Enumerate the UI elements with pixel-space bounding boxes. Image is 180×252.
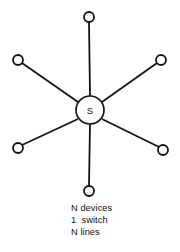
device-node-lower-right	[158, 145, 168, 155]
device-node-top	[84, 12, 94, 22]
caption-line-switch: 1 switch	[71, 215, 171, 227]
spoke-bottom	[89, 124, 90, 186]
spoke-lower-right	[102, 119, 159, 147]
spoke-upper-right	[102, 63, 157, 102]
device-node-upper-left	[13, 55, 23, 65]
switch-hub-label: S	[87, 105, 93, 116]
caption-line-lines: N lines	[71, 227, 171, 239]
spoke-top	[89, 22, 90, 96]
device-node-lower-left	[13, 143, 23, 153]
caption-block: N devices 1 switch N lines	[71, 203, 171, 238]
device-node-upper-right	[156, 55, 166, 65]
star-topology-figure: S N devices 1 switch N lines	[0, 0, 180, 252]
device-node-bottom	[84, 186, 94, 196]
caption-line-devices: N devices	[71, 203, 171, 215]
spoke-upper-left	[22, 63, 78, 102]
hub-group: S	[76, 96, 104, 124]
spoke-lower-left	[22, 119, 78, 145]
